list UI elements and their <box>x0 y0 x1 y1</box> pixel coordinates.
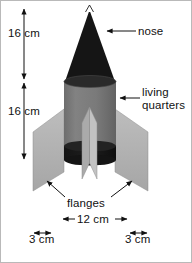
diagram-canvas: 16 cm 16 cm nose livingquarters flanges … <box>0 0 192 263</box>
nose-cone <box>65 5 116 83</box>
callout-label-nose: nose <box>138 25 163 38</box>
flange-left <box>33 109 64 191</box>
callout-arrow-flanges-left <box>47 181 65 197</box>
dimension-label-flange-right-width: 3 cm <box>125 233 150 246</box>
flange-right <box>115 109 148 191</box>
callout-label-living-quarters-line1: living <box>142 86 169 98</box>
callout-label-living-quarters: livingquarters <box>142 86 185 112</box>
dimension-label-lower: 16 cm <box>8 105 40 118</box>
callout-label-flanges: flanges <box>67 197 105 210</box>
callout-arrow-flanges-right <box>111 181 132 197</box>
callout-label-living-quarters-line2: quarters <box>142 99 185 112</box>
dimension-label-width-total: 12 cm <box>77 213 109 226</box>
dimension-label-upper: 16 cm <box>8 27 40 40</box>
dimension-label-flange-left-width: 3 cm <box>29 233 54 246</box>
flange-center <box>82 107 97 179</box>
